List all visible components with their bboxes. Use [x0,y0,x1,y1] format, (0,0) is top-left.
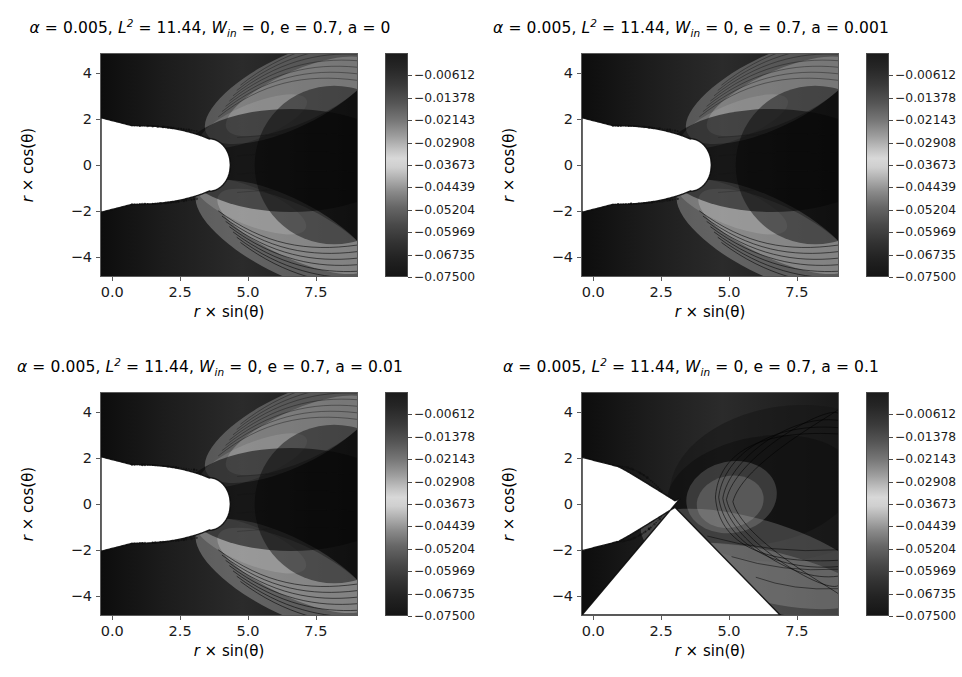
y-axis-label-times: × [500,518,518,531]
a-symbol: a [335,358,345,376]
x-tick-mark [593,616,594,620]
colorbar-3 [866,392,889,616]
x-tick-mark [593,277,594,281]
W-symbol: W [685,358,700,376]
x-tick-label: 2.5 [650,623,673,639]
y-axis-label: r × cos(θ) [19,128,37,202]
colorbar-tick-mark [408,165,412,166]
panel-title-1: α = 0.005, L2 = 11.44, Win = 0, e = 0.7,… [481,14,901,43]
colorbar-0 [385,53,408,277]
alpha-value: 0.005 [536,358,581,376]
y-tick-label: 4 [537,65,573,81]
colorbar-tick-mark [889,255,893,256]
a-value: 0.001 [844,19,889,37]
y-tick-label: 0 [56,496,92,512]
y-tick-mark [577,211,581,212]
colorbar-tick-mark [408,459,412,460]
y-axis-label-times: × [19,179,37,192]
colorbar-tick-label: −0.05204 [414,542,475,556]
x-axis-label-r: r [675,303,681,321]
alpha-value: 0.005 [51,358,96,376]
colorbar-tick-label: −0.06735 [414,587,475,601]
colorbar-tick-label: −0.05969 [895,225,956,239]
y-tick-label: 4 [56,65,92,81]
y-tick-label: 0 [56,157,92,173]
a-value: 0.1 [854,358,879,376]
L-exponent: 2 [590,17,597,29]
y-tick-mark [577,73,581,74]
y-tick-mark [577,412,581,413]
colorbar-tick-mark [889,98,893,99]
W-value: 0 [260,19,270,37]
x-axis-label-r: r [675,642,681,660]
colorbar-tick-mark [889,210,893,211]
x-tick-mark [797,616,798,620]
colorbar-tick-mark [408,187,412,188]
colorbar-tick-label: −0.05204 [414,203,475,217]
colorbar-tick-mark [408,504,412,505]
W-subscript: in [215,366,225,378]
x-tick-label: 0.0 [101,623,124,639]
colorbar-tick-mark [889,594,893,595]
colorbar-tick-label: −0.02908 [414,136,475,150]
x-axis-label-times: × [205,642,218,660]
e-value: 0.7 [776,19,801,37]
y-axis-label-func: cos(θ) [500,467,518,513]
y-tick-label: −2 [537,203,573,219]
plot-area-0 [100,53,358,277]
e-value: 0.7 [786,358,811,376]
colorbar-tick-mark [408,414,412,415]
contour-image-3 [582,393,838,615]
x-tick-mark [661,277,662,281]
colorbar-tick-mark [889,482,893,483]
colorbar-tick-mark [408,232,412,233]
colorbar-2 [385,392,408,616]
e-symbol: e [744,19,754,37]
colorbar-tick-label: −0.02143 [414,452,475,466]
colorbar-tick-label: −0.02143 [414,113,475,127]
y-axis-label-r: r [500,196,518,202]
colorbar-tick-label: −0.00612 [414,68,475,82]
x-tick-mark [316,277,317,281]
L-value: 11.44 [144,358,189,376]
x-axis-label: r × sin(θ) [581,303,839,321]
L-exponent: 2 [114,356,121,368]
y-tick-mark [577,550,581,551]
contour-panel-2: α = 0.005, L2 = 11.44, Win = 0, e = 0.7,… [0,339,481,677]
x-tick-mark [248,277,249,281]
x-axis-label-func: sin(θ) [222,303,264,321]
x-axis-label-func: sin(θ) [703,642,745,660]
contour-image-2 [101,393,357,615]
colorbar-tick-mark [889,75,893,76]
y-tick-label: −4 [56,249,92,265]
x-tick-label: 0.0 [582,284,605,300]
W-symbol: W [212,19,227,37]
a-symbol: a [811,19,821,37]
colorbar-tick-mark [889,187,893,188]
colorbar-tick-mark [889,571,893,572]
y-tick-label: −2 [56,203,92,219]
x-tick-mark [248,616,249,620]
x-tick-mark [112,616,113,620]
y-axis-label-func: cos(θ) [19,467,37,513]
colorbar-tick-label: −0.06735 [895,248,956,262]
y-tick-mark [96,504,100,505]
x-axis-label: r × sin(θ) [100,303,358,321]
x-tick-mark [729,616,730,620]
colorbar-tick-label: −0.04439 [895,180,956,194]
x-tick-mark [316,616,317,620]
W-subscript: in [691,27,701,39]
y-tick-mark [96,73,100,74]
e-value: 0.7 [300,358,325,376]
alpha-symbol: α [493,19,503,37]
y-tick-label: −2 [56,542,92,558]
x-tick-mark [180,616,181,620]
x-tick-label: 0.0 [582,623,605,639]
W-value: 0 [247,358,257,376]
L-symbol: L [591,358,600,376]
x-tick-mark [661,616,662,620]
e-value: 0.7 [313,19,338,37]
y-tick-mark [96,211,100,212]
contour-image-1 [582,54,838,276]
y-tick-label: −2 [537,542,573,558]
